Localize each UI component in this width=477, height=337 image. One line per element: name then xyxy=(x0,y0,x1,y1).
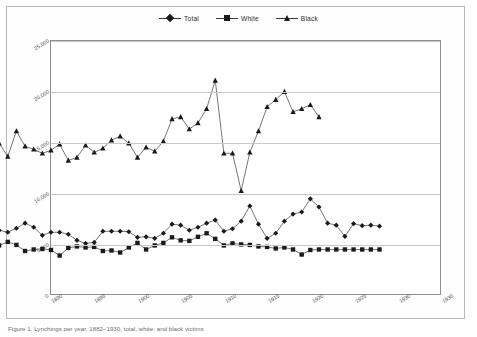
data-point-total-1922 xyxy=(325,221,330,226)
data-point-white-1927 xyxy=(369,247,373,251)
data-point-black-1908 xyxy=(204,106,209,111)
legend-item-black: Black xyxy=(276,14,318,23)
data-point-total-1898 xyxy=(118,229,123,234)
legend-label-black: Black xyxy=(301,15,318,22)
data-point-white-1919 xyxy=(300,252,304,256)
data-point-black-1905 xyxy=(178,114,183,119)
data-point-white-1898 xyxy=(118,250,122,254)
data-point-white-1888 xyxy=(32,247,36,251)
data-point-black-1912 xyxy=(238,188,243,193)
gridline-y-25000 xyxy=(51,41,440,42)
data-point-total-1897 xyxy=(109,229,114,234)
data-point-white-1892 xyxy=(66,246,70,250)
data-point-white-1891 xyxy=(57,253,61,257)
data-point-total-1891 xyxy=(57,230,62,235)
legend-label-total: Total xyxy=(184,15,199,22)
series-total xyxy=(0,196,382,246)
triangle-marker-icon xyxy=(284,15,290,21)
data-point-total-1906 xyxy=(187,228,192,233)
data-point-white-1925 xyxy=(351,247,355,251)
data-point-white-1926 xyxy=(360,247,364,251)
series-line-total xyxy=(0,199,379,244)
plot-area xyxy=(50,40,441,295)
data-point-black-1907 xyxy=(195,120,200,125)
gridline-y-10000 xyxy=(51,194,440,195)
data-point-total-1893 xyxy=(74,238,79,243)
data-point-total-1890 xyxy=(48,230,53,235)
data-point-white-1887 xyxy=(23,249,27,253)
data-point-total-1900 xyxy=(135,235,140,240)
legend-item-total: Total xyxy=(159,14,199,23)
data-point-total-1925 xyxy=(351,221,356,226)
data-layer xyxy=(51,41,440,294)
data-point-total-1902 xyxy=(152,236,157,241)
data-point-total-1926 xyxy=(360,223,365,228)
data-point-white-1901 xyxy=(144,247,148,251)
legend-label-white: White xyxy=(241,15,259,22)
data-point-white-1890 xyxy=(49,248,53,252)
data-point-white-1922 xyxy=(325,247,329,251)
data-point-white-1885 xyxy=(6,240,10,244)
data-point-total-1907 xyxy=(195,225,200,230)
data-point-white-1916 xyxy=(274,246,278,250)
data-point-black-1909 xyxy=(213,78,218,83)
data-point-black-1913 xyxy=(247,149,252,154)
gridline-y-20000 xyxy=(51,92,440,93)
data-point-total-1908 xyxy=(204,221,209,226)
data-point-white-1924 xyxy=(343,247,347,251)
legend-sample-black xyxy=(276,14,298,23)
data-point-black-1901 xyxy=(143,144,148,149)
gridline-y-5000 xyxy=(51,245,440,246)
data-point-black-1914 xyxy=(256,128,261,133)
data-point-total-1901 xyxy=(144,234,149,239)
data-point-total-1916 xyxy=(273,231,278,236)
data-point-white-1889 xyxy=(40,247,44,251)
data-point-white-1905 xyxy=(178,238,182,242)
data-point-black-1890 xyxy=(48,147,53,152)
data-point-total-1913 xyxy=(247,203,252,208)
diamond-marker-icon xyxy=(166,14,174,22)
y-axis-labels: 05,00010,00015,00020,00025,000 xyxy=(0,40,48,295)
chart-legend: Total White Black xyxy=(0,14,477,23)
data-point-white-1920 xyxy=(308,248,312,252)
y-tick-label-25000: 25,000 xyxy=(32,37,49,51)
data-point-total-1927 xyxy=(368,223,373,228)
data-point-white-1904 xyxy=(170,235,174,239)
legend-sample-white xyxy=(216,14,238,23)
data-point-white-1896 xyxy=(101,249,105,253)
data-point-black-1915 xyxy=(264,104,269,109)
data-point-white-1908 xyxy=(204,231,208,235)
y-tick-label-20000: 20,000 xyxy=(32,88,49,102)
y-tick-label-10000: 10,000 xyxy=(32,190,49,204)
square-marker-icon xyxy=(224,15,230,21)
data-point-white-1886 xyxy=(14,243,18,247)
data-point-white-1921 xyxy=(317,247,321,251)
data-point-white-1923 xyxy=(334,247,338,251)
data-point-white-1907 xyxy=(196,235,200,239)
data-point-black-1898 xyxy=(117,133,122,138)
data-point-total-1919 xyxy=(299,209,304,214)
data-point-white-1909 xyxy=(213,237,217,241)
data-point-white-1884 xyxy=(0,243,1,247)
legend-item-white: White xyxy=(216,14,259,23)
data-point-black-1897 xyxy=(109,137,114,142)
data-point-white-1897 xyxy=(109,248,113,252)
data-point-black-1919 xyxy=(299,106,304,111)
figure-page: Total White Black 05,00010,00015,00020,0… xyxy=(0,0,477,337)
data-point-white-1928 xyxy=(377,247,381,251)
data-point-total-1928 xyxy=(377,224,382,229)
gridline-y-15000 xyxy=(51,143,440,144)
data-point-total-1899 xyxy=(126,229,131,234)
data-point-white-1918 xyxy=(291,247,295,251)
data-point-black-1895 xyxy=(92,149,97,154)
data-point-total-1905 xyxy=(178,223,183,228)
data-point-total-1914 xyxy=(256,222,261,227)
data-point-total-1915 xyxy=(265,236,270,241)
data-point-white-1906 xyxy=(187,239,191,243)
figure-caption: Figure 1. Lynchings per year, 1882–1930,… xyxy=(8,325,470,332)
data-point-black-1920 xyxy=(308,102,313,107)
legend-sample-total xyxy=(159,14,181,23)
data-point-total-1892 xyxy=(66,232,71,237)
